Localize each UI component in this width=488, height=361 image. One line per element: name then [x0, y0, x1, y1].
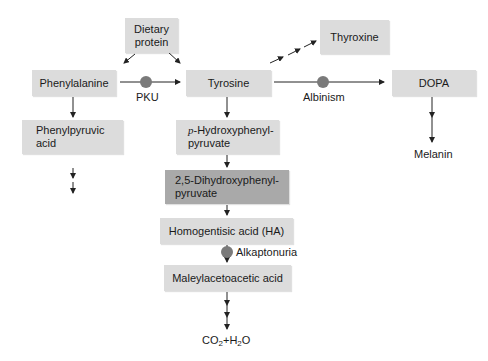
node-tyrosine: Tyrosine [186, 70, 271, 96]
dihydroxy-line1: 2,5-Dihydroxyphenyl- [175, 174, 279, 187]
node-dihydroxyphenylpyruvate: 2,5-Dihydroxyphenyl- pyruvate [165, 170, 289, 204]
phenylpyruvic-line1: Phenylpyruvic [36, 124, 104, 137]
p-hydroxy-line2: pyruvate [188, 137, 230, 150]
dietary-protein-line2: protein [135, 36, 169, 49]
node-homogentisic-acid: Homogentisic acid (HA) [160, 218, 293, 244]
pku-label: PKU [136, 91, 159, 104]
homogentisic-label: Homogentisic acid (HA) [169, 225, 285, 238]
maleylacetoacetic-label: Maleylacetoacetic acid [172, 272, 283, 285]
node-maleylacetoacetic-acid: Maleylacetoacetic acid [164, 265, 291, 291]
o-text: O [242, 334, 251, 346]
node-co2-h2o: CO2+H2O [202, 334, 250, 347]
alkaptonuria-label: Alkaptonuria [236, 246, 297, 259]
p-hydroxy-text: -Hydroxyphenyl- [194, 124, 274, 136]
plus-h-text: +H [223, 334, 237, 346]
node-melanin: Melanin [414, 148, 453, 161]
p-hydroxy-line1: p-Hydroxyphenyl- [188, 124, 274, 137]
phenylpyruvic-line2: acid [36, 137, 56, 150]
albinism-block-dot [317, 76, 329, 88]
node-p-hydroxyphenylpyruvate: p-Hydroxyphenyl- pyruvate [176, 120, 279, 154]
albinism-label: Albinism [303, 91, 345, 104]
co-text: CO [202, 334, 219, 346]
phenylalanine-label: Phenylalanine [39, 77, 108, 90]
node-phenylpyruvic-acid: Phenylpyruvic acid [22, 120, 123, 154]
dihydroxy-line2: pyruvate [175, 187, 217, 200]
thyroxine-label: Thyroxine [330, 31, 378, 44]
node-thyroxine: Thyroxine [320, 20, 389, 54]
pku-block-dot [140, 76, 152, 88]
alkaptonuria-block-dot [221, 246, 233, 258]
dietary-protein-line1: Dietary [134, 23, 169, 36]
tyrosine-label: Tyrosine [208, 77, 250, 90]
node-dopa: DOPA [392, 70, 476, 96]
node-phenylalanine: Phenylalanine [32, 70, 116, 96]
dopa-label: DOPA [419, 77, 449, 90]
node-dietary-protein: Dietary protein [125, 18, 178, 53]
